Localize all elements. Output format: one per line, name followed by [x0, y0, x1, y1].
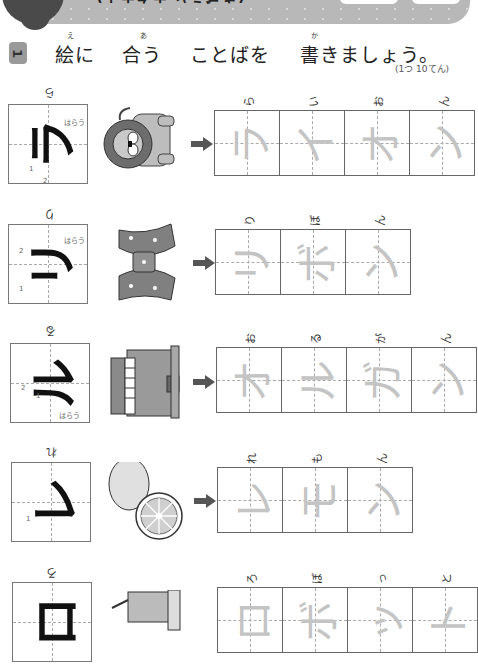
- stroke-number: 2: [21, 384, 25, 392]
- write-cell[interactable]: れレ: [218, 468, 283, 532]
- model-char: ロ: [13, 583, 91, 661]
- arrow-right-icon: [193, 256, 215, 270]
- picture-lion: [100, 100, 180, 180]
- write-cell[interactable]: もモ: [283, 468, 348, 532]
- write-cell[interactable]: んン: [346, 230, 411, 294]
- ruby-e: え: [67, 30, 74, 40]
- ruby-a: あ: [140, 30, 147, 40]
- stroke-note-harau: はらう: [64, 235, 85, 245]
- write-row-ribbon: りリ ぼボ んン: [215, 229, 411, 295]
- model-reading: り: [39, 207, 59, 223]
- stroke-number: 2: [43, 177, 47, 185]
- stroke-number: 2: [19, 247, 23, 255]
- arrow-right-icon: [191, 137, 213, 151]
- stroke-note-harau: はらう: [64, 117, 85, 127]
- write-cell[interactable]: ぼボ: [283, 588, 348, 652]
- write-cell[interactable]: がガ: [347, 348, 412, 412]
- picture-lemon: [105, 462, 185, 542]
- picture-organ: [105, 342, 185, 422]
- ribbon-icon: [105, 222, 185, 302]
- write-row-robot: ろロ ぼボ っッ とト: [217, 587, 478, 653]
- robot-icon: [108, 590, 188, 666]
- page-title: (きごうと カタカナ): [95, 0, 245, 8]
- write-cell[interactable]: んン: [410, 111, 475, 175]
- stroke-number: 1: [26, 515, 30, 523]
- stroke-number: 1: [29, 165, 33, 173]
- model-box-ro: ロ: [12, 582, 92, 662]
- write-cell[interactable]: ぼボ: [281, 230, 346, 294]
- header-score-box: [412, 0, 460, 4]
- write-cell[interactable]: とト: [413, 588, 478, 652]
- model-reading: ろ: [41, 566, 61, 582]
- write-cell[interactable]: いイ: [280, 111, 345, 175]
- picture-ribbon: [105, 222, 185, 302]
- model-box-ri: リ 2 1 はらう: [8, 224, 88, 304]
- model-reading: ら: [39, 86, 59, 102]
- model-reading: れ: [41, 445, 61, 461]
- write-cell[interactable]: るル: [282, 348, 347, 412]
- write-cell[interactable]: らラ: [215, 111, 280, 175]
- write-cell[interactable]: っッ: [348, 588, 413, 652]
- question-number-badge: 1: [9, 42, 27, 64]
- stroke-note-harau: はらう: [59, 410, 80, 420]
- instruction-part-3: ことばを: [190, 40, 270, 67]
- organ-icon: [105, 342, 185, 422]
- score-note: (1つ 10てん): [395, 62, 449, 75]
- write-row-lion: らラ いイ おオ んン: [214, 110, 475, 176]
- write-cell[interactable]: んン: [348, 468, 413, 532]
- model-box-re: レ 1: [11, 462, 91, 542]
- instruction-part-1: 絵に: [55, 40, 95, 67]
- arrow-right-icon: [193, 375, 215, 389]
- write-cell[interactable]: んン: [412, 348, 477, 412]
- write-cell[interactable]: ろロ: [218, 588, 283, 652]
- write-row-lemon: れレ もモ んン: [217, 467, 413, 533]
- lemon-icon: [105, 462, 185, 542]
- stroke-number: 1: [36, 392, 40, 400]
- lion-icon: [100, 100, 180, 180]
- model-reading: る: [40, 324, 60, 340]
- write-cell[interactable]: おオ: [345, 111, 410, 175]
- model-box-ru: ル 2 1 はらう: [10, 343, 90, 423]
- model-box-ra: ラ 1 2 はらう: [8, 104, 88, 184]
- arrow-right-icon: [194, 494, 216, 508]
- ruby-ka: か: [311, 30, 318, 40]
- model-char: レ: [12, 463, 90, 541]
- write-cell[interactable]: おオ: [217, 348, 282, 412]
- picture-robot: [108, 590, 188, 666]
- write-row-organ: おオ るル がガ んン: [216, 347, 477, 413]
- stroke-number: 1: [19, 285, 23, 293]
- instruction-part-2: 合う: [122, 40, 162, 67]
- write-cell[interactable]: りリ: [216, 230, 281, 294]
- header-name-box: [340, 0, 398, 4]
